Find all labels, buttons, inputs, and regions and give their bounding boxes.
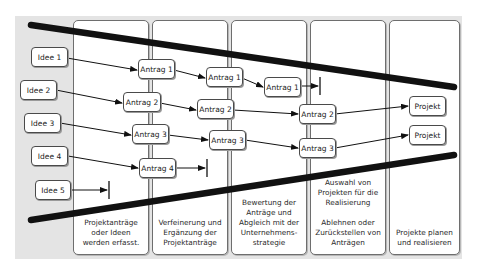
proposal-box-s2-4: Antrag 4 xyxy=(139,158,176,178)
proposal-box-s3-3: Antrag 3 xyxy=(209,130,246,150)
proposal-box-s2-1: Antrag 1 xyxy=(138,59,175,79)
idea-label: Idee 2 xyxy=(27,86,50,95)
idea-label: Idee 3 xyxy=(31,119,54,128)
proposal-label: Antrag 2 xyxy=(199,105,231,114)
idea-label: Idee 5 xyxy=(41,186,64,195)
idea-box-2: Idee 2 xyxy=(20,80,57,100)
idea-label: Idee 4 xyxy=(38,152,61,161)
proposal-label: Antrag 1 xyxy=(140,65,172,74)
proposal-box-s4-2: Antrag 2 xyxy=(299,104,336,124)
idea-box-3: Idee 3 xyxy=(24,113,61,133)
proposal-label: Antrag 3 xyxy=(211,136,243,145)
project-label: Projekt xyxy=(415,131,441,140)
proposal-box-s2-3: Antrag 3 xyxy=(132,124,169,144)
idea-label: Idee 1 xyxy=(38,53,61,62)
proposal-box-s4-3: Antrag 3 xyxy=(299,138,336,158)
project-label: Projekt xyxy=(415,102,441,111)
proposal-box-s3-2: Antrag 2 xyxy=(197,99,234,119)
project-box-1: Projekt xyxy=(409,96,446,116)
proposal-box-s3-1: Antrag 1 xyxy=(206,67,243,87)
project-box-2: Projekt xyxy=(409,125,446,145)
proposal-label: Antrag 1 xyxy=(208,73,240,82)
proposal-box-s4-1: Antrag 1 xyxy=(264,77,301,97)
proposal-label: Antrag 3 xyxy=(134,130,166,139)
idea-box-5: Idee 5 xyxy=(35,180,71,200)
proposal-label: Antrag 1 xyxy=(266,83,298,92)
proposal-label: Antrag 2 xyxy=(126,98,158,107)
idea-box-4: Idee 4 xyxy=(31,146,68,166)
idea-box-1: Idee 1 xyxy=(31,47,68,67)
proposal-label: Antrag 2 xyxy=(301,110,333,119)
proposal-label: Antrag 4 xyxy=(141,164,173,173)
proposal-box-s2-2: Antrag 2 xyxy=(123,92,161,112)
proposal-label: Antrag 3 xyxy=(301,144,333,153)
